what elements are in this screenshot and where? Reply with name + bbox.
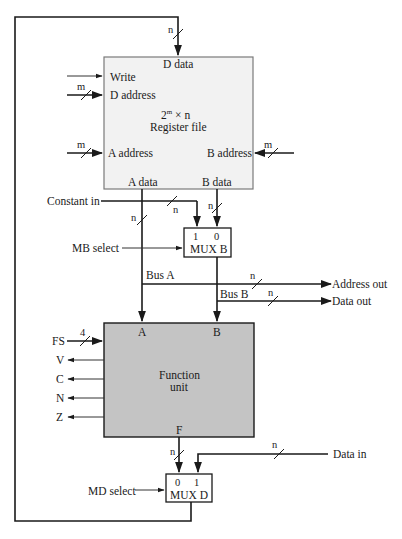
svg-text:n: n xyxy=(272,439,278,450)
svg-text:n: n xyxy=(131,212,137,223)
port-write: Write xyxy=(110,71,136,83)
constant-in-wire: Constant in n xyxy=(47,195,197,226)
mux-b-label: MUX B xyxy=(190,243,228,255)
port-d-data: D data xyxy=(163,58,193,70)
address-out-label: Address out xyxy=(332,278,388,290)
fs-label: FS xyxy=(52,335,65,347)
function-unit: A B Function unit F xyxy=(104,323,254,437)
svg-text:m: m xyxy=(77,139,85,150)
mb-select-input: MB select xyxy=(72,242,182,254)
bus-b-label: Bus B xyxy=(220,288,249,300)
data-in-wire: n Data in xyxy=(198,439,367,472)
svg-text:4: 4 xyxy=(80,327,86,338)
svg-text:C: C xyxy=(56,373,64,385)
mux-d-input-0: 0 xyxy=(175,477,180,488)
d-address-input: m xyxy=(67,81,102,100)
md-select-input: MD select xyxy=(88,485,164,497)
mux-b: 1 0 MUX B xyxy=(184,228,231,257)
data-in-label: Data in xyxy=(333,448,367,460)
flag-z-output: Z xyxy=(56,411,104,423)
constant-in-label: Constant in xyxy=(47,195,100,207)
bus-a-label: Bus A xyxy=(146,269,175,281)
function-unit-port-a: A xyxy=(138,326,147,338)
b-address-input: m xyxy=(255,139,294,158)
svg-text:n: n xyxy=(170,446,176,457)
register-file-label: Register file xyxy=(150,121,207,134)
svg-text:Z: Z xyxy=(56,411,63,423)
mux-d-label: MUX D xyxy=(170,489,208,501)
flag-n-output: N xyxy=(56,392,104,404)
mux-b-input-0: 0 xyxy=(214,231,219,242)
mux-d-input-1: 1 xyxy=(194,477,199,488)
port-b-address: B address xyxy=(207,147,253,159)
function-unit-subtitle: unit xyxy=(170,381,189,393)
mb-select-label: MB select xyxy=(72,242,120,254)
datapath-diagram: n D data Write D address 2m × n Register… xyxy=(0,0,402,539)
svg-text:n: n xyxy=(173,204,179,215)
mux-d: 0 1 MUX D xyxy=(166,474,212,502)
b-data-wire: n xyxy=(208,189,222,226)
function-unit-port-f: F xyxy=(176,424,182,436)
f-output-wire: n xyxy=(170,437,184,472)
svg-text:N: N xyxy=(56,392,65,404)
flag-c-output: C xyxy=(56,373,104,385)
register-file-title: 2m × n xyxy=(161,108,190,121)
data-out-label: Data out xyxy=(332,295,372,307)
svg-text:V: V xyxy=(56,354,65,366)
register-file: D data Write D address 2m × n Register f… xyxy=(104,57,253,189)
function-unit-title: Function xyxy=(159,369,200,381)
md-select-label: MD select xyxy=(88,485,136,497)
svg-text:n: n xyxy=(268,287,274,298)
d-data-width-label: n xyxy=(168,24,174,35)
function-unit-port-b: B xyxy=(213,326,221,338)
port-d-address: D address xyxy=(110,89,156,101)
flag-v-output: V xyxy=(56,354,104,366)
svg-text:m: m xyxy=(264,139,272,150)
a-address-input: m xyxy=(67,139,102,158)
port-a-data: A data xyxy=(128,176,158,188)
port-b-data: B data xyxy=(202,176,232,188)
port-a-address: A address xyxy=(108,147,154,159)
svg-text:n: n xyxy=(250,270,256,281)
fs-input: FS 4 xyxy=(52,327,102,347)
svg-text:n: n xyxy=(208,200,214,211)
mux-b-input-1: 1 xyxy=(193,231,198,242)
svg-text:m: m xyxy=(77,81,85,92)
